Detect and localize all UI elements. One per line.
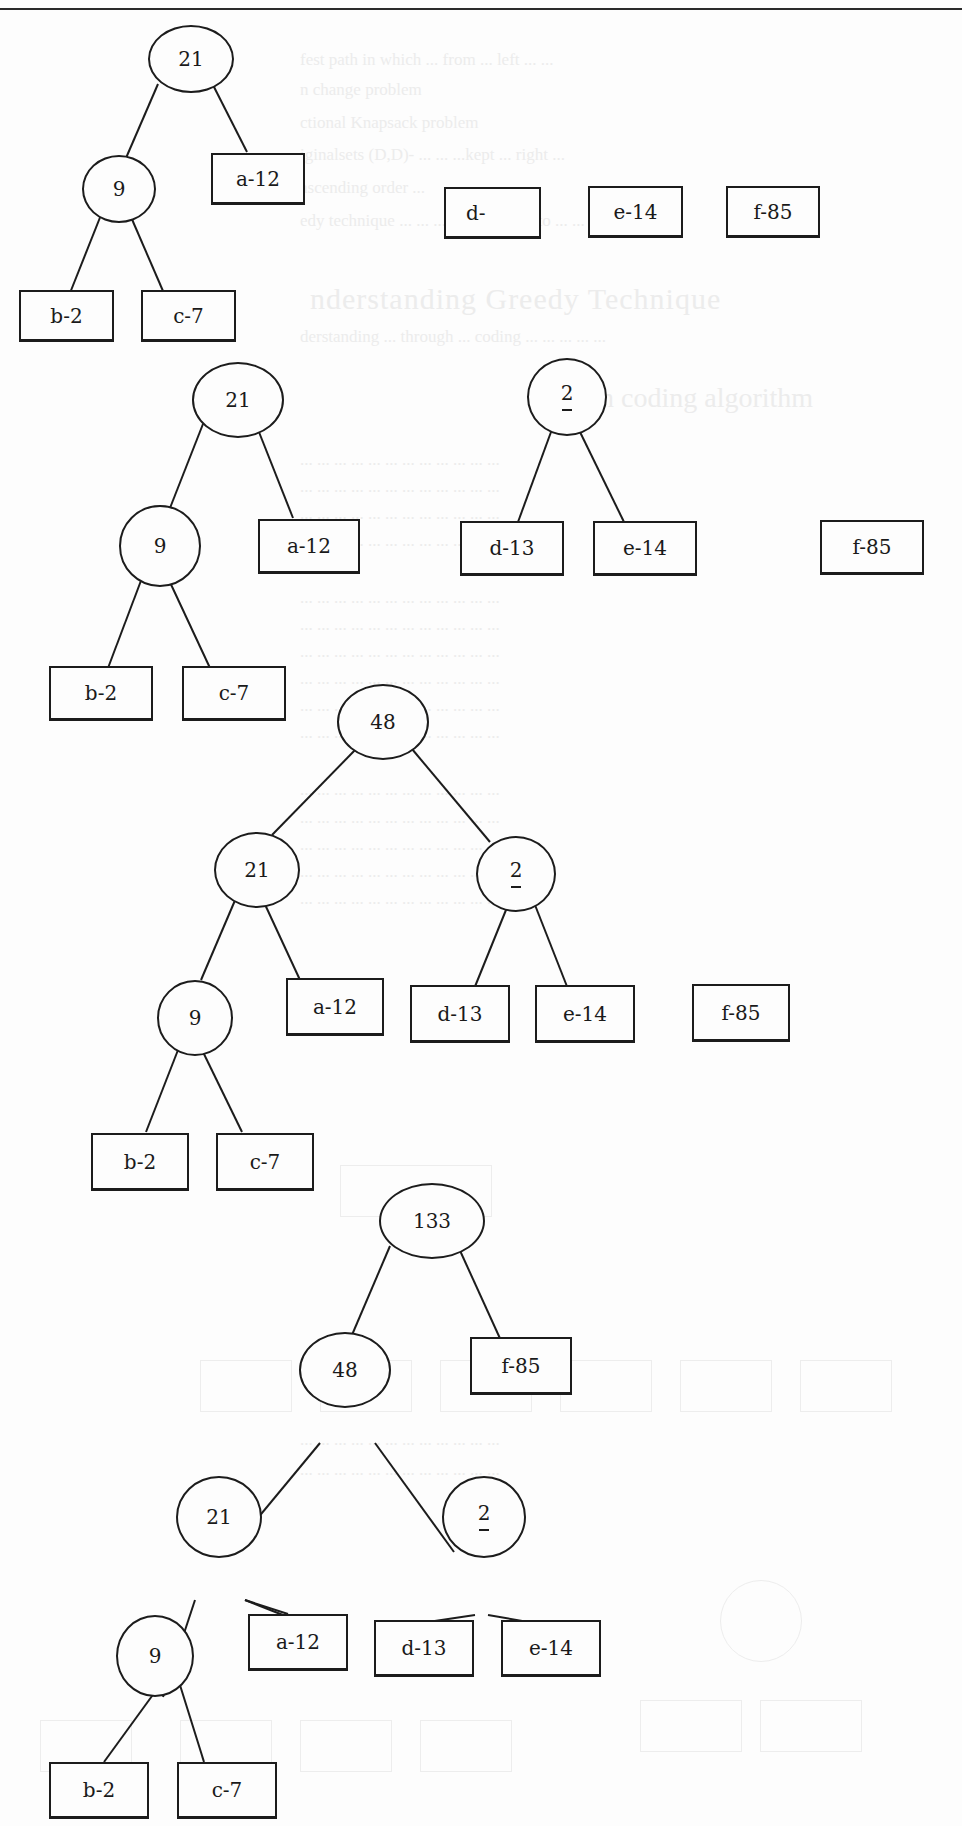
- leaf-label: a-12: [276, 1632, 320, 1652]
- leaf-label: f-85: [722, 1003, 761, 1023]
- leaf-node-a: a-12: [248, 1614, 348, 1671]
- node-weight: 48: [370, 712, 395, 732]
- leaf-node-a: a-12: [286, 978, 384, 1036]
- leaf-label: b-2: [124, 1152, 156, 1172]
- leaf-node-e: e-14: [535, 985, 635, 1043]
- truncated-digit-mark: [511, 886, 521, 888]
- leaf-node-d: d-: [444, 187, 541, 239]
- truncated-digit-mark: [562, 409, 572, 411]
- leaf-node-b: b-2: [19, 290, 114, 342]
- leaf-label: c-7: [212, 1780, 243, 1800]
- node-weight: 133: [413, 1211, 451, 1231]
- leaf-label: b-2: [50, 306, 82, 326]
- leaf-label: d-13: [401, 1638, 446, 1658]
- node-weight: 21: [225, 390, 250, 410]
- truncated-digit-mark: [479, 1529, 489, 1531]
- leaf-node-e: e-14: [593, 521, 697, 576]
- node-weight: 21: [244, 860, 269, 880]
- leaf-label: f-85: [502, 1356, 541, 1376]
- tree-node-9: 9: [82, 155, 156, 223]
- tree-node-9: 9: [157, 980, 233, 1056]
- leaf-node-c: c-7: [216, 1133, 314, 1191]
- tree-node-27: 2: [476, 836, 556, 912]
- leaf-node-a: a-12: [211, 153, 305, 205]
- leaf-node-f: f-85: [820, 520, 924, 575]
- leaf-label: c-7: [219, 683, 250, 703]
- node-weight: 9: [113, 179, 126, 199]
- leaf-label: c-7: [173, 306, 204, 326]
- tree-node-133: 133: [379, 1183, 485, 1259]
- node-weight: 2: [510, 860, 523, 880]
- leaf-node-d: d-13: [460, 521, 564, 576]
- leaf-label: c-7: [250, 1152, 281, 1172]
- leaf-node-b: b-2: [49, 1762, 149, 1819]
- leaf-label: b-2: [83, 1780, 115, 1800]
- leaf-label: a-12: [313, 997, 357, 1017]
- leaf-label: e-14: [529, 1638, 573, 1658]
- leaf-node-b: b-2: [91, 1133, 189, 1191]
- leaf-label: d-13: [437, 1004, 482, 1024]
- node-weight: 9: [154, 536, 167, 556]
- tree-node-21: 21: [148, 25, 234, 93]
- tree-node-27: 2: [442, 1476, 526, 1558]
- leaf-node-f: f-85: [726, 186, 820, 238]
- node-weight: 21: [178, 49, 203, 69]
- leaf-node-d: d-13: [374, 1620, 474, 1677]
- node-weight: 9: [189, 1008, 202, 1028]
- node-weight: 48: [332, 1360, 357, 1380]
- tree-node-48: 48: [337, 684, 429, 760]
- node-weight: 9: [149, 1646, 162, 1666]
- leaf-label: a-12: [236, 169, 280, 189]
- leaf-node-d: d-13: [410, 985, 510, 1043]
- leaf-node-f: f-85: [692, 984, 790, 1042]
- tree-node-9: 9: [116, 1615, 194, 1697]
- scanned-page: fest path in which ... from ... left ...…: [0, 0, 962, 1826]
- leaf-label: f-85: [853, 537, 892, 557]
- leaf-label: e-14: [623, 538, 667, 558]
- leaf-node-e: e-14: [588, 186, 683, 238]
- node-weight: 21: [206, 1507, 231, 1527]
- leaf-label: f-85: [754, 202, 793, 222]
- leaf-node-f: f-85: [470, 1337, 572, 1395]
- tree-node-21: 21: [176, 1476, 262, 1558]
- tree-node-27: 2: [527, 358, 607, 436]
- tree-node-21: 21: [214, 832, 300, 908]
- tree-node-9: 9: [119, 505, 201, 587]
- node-weight: 2: [478, 1503, 491, 1523]
- leaf-label: e-14: [563, 1004, 607, 1024]
- leaf-label: d-: [466, 203, 486, 223]
- leaf-node-c: c-7: [141, 290, 236, 342]
- leaf-label: a-12: [287, 536, 331, 556]
- tree-node-21: 21: [192, 362, 284, 438]
- leaf-label: e-14: [613, 202, 657, 222]
- leaf-node-a: a-12: [258, 519, 360, 574]
- tree-node-48: 48: [299, 1332, 391, 1408]
- leaf-node-c: c-7: [177, 1762, 277, 1819]
- leaf-label: b-2: [85, 683, 117, 703]
- leaf-node-c: c-7: [182, 666, 286, 721]
- leaf-node-b: b-2: [49, 666, 153, 721]
- leaf-node-e: e-14: [501, 1620, 601, 1677]
- leaf-label: d-13: [489, 538, 534, 558]
- node-weight: 2: [561, 383, 574, 403]
